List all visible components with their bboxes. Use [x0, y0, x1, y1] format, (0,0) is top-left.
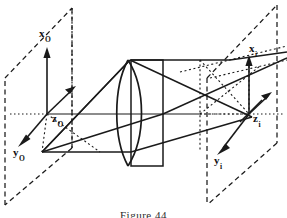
object-x-axis-label: xO — [39, 28, 50, 42]
ray-bundle — [42, 52, 287, 152]
optical-figure: xO zO yO xi zi yi Figure 44 — [0, 0, 287, 218]
object-z-axis-line — [47, 90, 72, 114]
image-axes — [223, 62, 268, 148]
image-y-axis-label: yi — [214, 155, 222, 169]
construction-lines — [42, 8, 287, 152]
object-y-axis-label: yO — [13, 147, 24, 161]
image-z-axis-label: zi — [253, 113, 260, 127]
ray-1-image-side — [130, 60, 252, 117]
lens-left-surface — [117, 60, 128, 166]
object-z-arrowhead — [65, 86, 76, 94]
object-x-arrowhead — [43, 47, 50, 58]
ray-upper-to-image — [230, 52, 287, 60]
object-z-axis-label: zO — [52, 113, 63, 127]
image-z-arrowhead — [261, 92, 272, 100]
figure-caption: Figure 44 — [0, 209, 287, 218]
image-plane-outline — [207, 5, 277, 205]
image-x-axis-label: xi — [249, 43, 257, 57]
ray-3-image-side — [163, 58, 287, 114]
